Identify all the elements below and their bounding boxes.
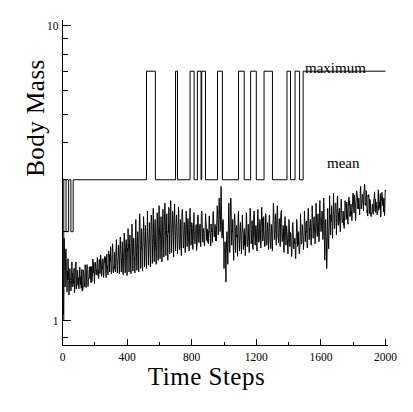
y-tick-label: 1: [53, 315, 59, 327]
x-tick-label: 800: [183, 351, 201, 363]
series-maximum: [63, 71, 386, 320]
x-tick-label: 1200: [245, 351, 268, 363]
chart-figure: 1100400800120016002000 Body Mass Time St…: [0, 0, 413, 412]
x-tick-label: 2000: [374, 351, 397, 363]
x-tick-label: 0: [60, 351, 66, 363]
y-axis-title: Body Mass: [18, 0, 54, 238]
x-tick-label: 400: [118, 351, 136, 363]
y-axis-title-wrapper: Body Mass: [18, 0, 54, 238]
x-axis-title: Time Steps: [0, 364, 413, 389]
series-annotation-mean: mean: [327, 156, 359, 171]
data-series-group: [63, 71, 386, 320]
series-annotation-maximum: maximum: [305, 61, 366, 76]
series-mean: [63, 184, 386, 320]
x-tick-label: 1600: [309, 351, 332, 363]
